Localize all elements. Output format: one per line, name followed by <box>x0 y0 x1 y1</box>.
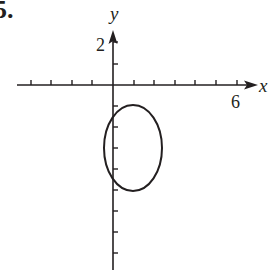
y-tick-label: 2 <box>96 35 105 55</box>
graph: 5. y x 2 6 <box>0 0 273 272</box>
x-axis-label: x <box>258 75 268 96</box>
y-axis-label: y <box>108 3 119 24</box>
problem-number: 5. <box>0 0 14 24</box>
x-tick-label: 6 <box>231 92 240 112</box>
